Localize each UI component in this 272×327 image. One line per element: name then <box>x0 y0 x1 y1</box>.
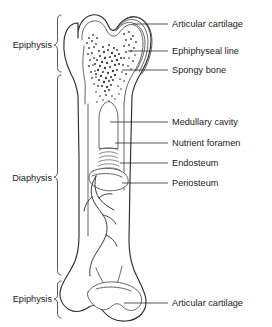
label-epiphyseal-line: Ephiphyseal line <box>172 46 239 56</box>
bone-diagram: EpiphysisDiaphysisEpiphysis Articular ca… <box>0 0 272 327</box>
left-label-group: EpiphysisDiaphysisEpiphysis <box>12 40 52 304</box>
label-diaphysis: Diaphysis <box>12 173 52 183</box>
label-periosteum: Periosteum <box>172 178 219 188</box>
label-spongy-bone: Spongy bone <box>172 65 226 75</box>
medullary-cavity-shape <box>99 102 118 148</box>
label-epiphysis-distal: Epiphysis <box>13 294 53 304</box>
label-articular-cartilage-bottom: Articular cartilage <box>172 298 243 308</box>
right-label-group: Articular cartilageEphiphyseal lineSpong… <box>172 19 243 308</box>
label-medullary-cavity: Medullary cavity <box>172 117 238 127</box>
label-endosteum: Endosteum <box>172 158 219 168</box>
label-articular-cartilage-top: Articular cartilage <box>172 19 243 29</box>
left-braces <box>54 15 61 318</box>
label-nutrient-foramen: Nutrient foramen <box>172 138 240 148</box>
label-epiphysis-proximal: Epiphysis <box>13 40 53 50</box>
